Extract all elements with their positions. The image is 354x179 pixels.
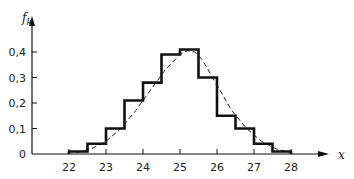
y-tick-label: 0,1 xyxy=(9,123,27,136)
x-tick-label: 24 xyxy=(136,161,150,174)
x-axis-arrow-icon xyxy=(318,151,329,157)
y-tick-label: 0,4 xyxy=(9,46,27,59)
y-tick-label: 0,2 xyxy=(9,97,27,110)
x-tick-label: 26 xyxy=(210,161,224,174)
x-tick-label: 27 xyxy=(247,161,261,174)
fitted-curve xyxy=(76,51,291,153)
fitted-curve-line xyxy=(76,51,291,153)
x-axis-label: x xyxy=(338,148,345,162)
histogram-steps xyxy=(69,49,291,154)
x-tick-label: 28 xyxy=(284,161,298,174)
histogram-chart: 00,10,20,30,422232425262728 fk x xyxy=(0,0,354,179)
x-tick-label: 23 xyxy=(99,161,113,174)
axis-labels: fk x xyxy=(21,11,345,162)
y-tick-label: 0 xyxy=(19,148,26,161)
y-tick-label: 0,3 xyxy=(9,72,27,85)
x-tick-label: 22 xyxy=(62,161,76,174)
y-axis-label: fk xyxy=(21,11,32,27)
histogram-outline xyxy=(69,49,291,154)
x-tick-label: 25 xyxy=(173,161,187,174)
